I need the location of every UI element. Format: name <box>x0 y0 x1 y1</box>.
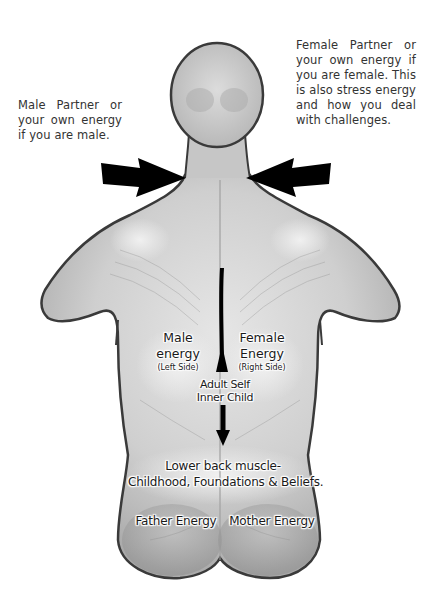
lower-back-label: Lower back muscle- Childhood, Foundation… <box>128 458 318 490</box>
lower-back-line2: Childhood, Foundations & Beliefs. <box>128 474 318 490</box>
male-energy-side: (Left Side) <box>148 362 208 374</box>
female-energy-side: (Right Side) <box>228 362 296 374</box>
male-energy-label: Male energy (Left Side) <box>148 330 208 374</box>
father-energy-label: Father Energy <box>130 513 222 529</box>
lower-back-line1: Lower back muscle- <box>128 458 318 474</box>
male-partner-note: Male Partner or your own energy if you a… <box>18 98 122 143</box>
adult-self-text: Adult Self <box>190 378 260 391</box>
female-energy-line1: Female <box>228 330 296 346</box>
mother-energy-label: Mother Energy <box>226 513 318 529</box>
female-energy-label: Female Energy (Right Side) <box>228 330 296 374</box>
back-energy-diagram: Male Partner or your own energy if you a… <box>0 0 429 604</box>
female-partner-note: Female Partner or your own energy if you… <box>296 38 416 128</box>
female-energy-line2: Energy <box>228 346 296 362</box>
male-energy-line1: Male <box>148 330 208 346</box>
head <box>171 43 263 147</box>
spine-label: Adult Self Inner Child <box>190 378 260 404</box>
inner-child-text: Inner Child <box>190 391 260 404</box>
male-energy-line2: energy <box>148 346 208 362</box>
